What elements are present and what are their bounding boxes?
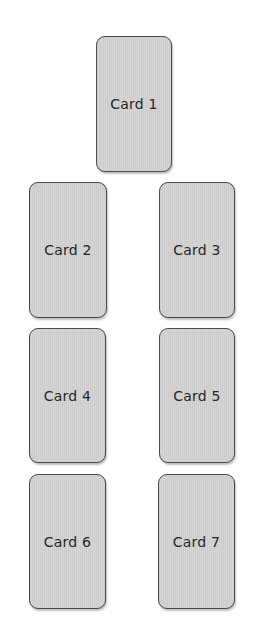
card-4-label: Card 4 <box>44 388 91 404</box>
card-6: Card 6 <box>29 474 106 609</box>
card-4: Card 4 <box>29 328 106 463</box>
card-1: Card 1 <box>96 36 172 172</box>
card-3-label: Card 3 <box>173 242 220 258</box>
card-5-label: Card 5 <box>173 388 220 404</box>
card-1-label: Card 1 <box>110 96 157 112</box>
card-3: Card 3 <box>159 182 235 318</box>
card-2: Card 2 <box>29 182 107 318</box>
card-7: Card 7 <box>158 474 235 609</box>
card-6-label: Card 6 <box>44 534 91 550</box>
card-5: Card 5 <box>159 328 235 463</box>
card-7-label: Card 7 <box>173 534 220 550</box>
card-2-label: Card 2 <box>44 242 91 258</box>
